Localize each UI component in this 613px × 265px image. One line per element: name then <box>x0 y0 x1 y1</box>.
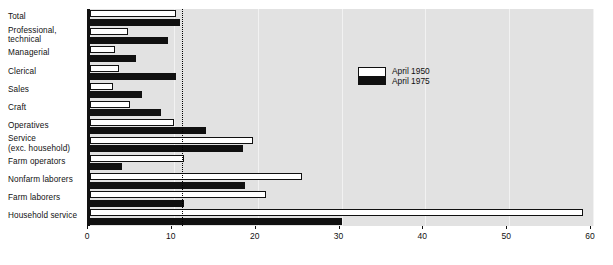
bar-april-1950-10 <box>90 191 266 198</box>
x-tick-mark-50 <box>506 226 507 229</box>
x-axis: 0102030405060 <box>87 226 590 256</box>
bar-april-1950-5 <box>90 101 130 108</box>
x-tick-label-30: 30 <box>334 231 343 241</box>
legend-label-1950: April 1950 <box>392 66 430 76</box>
category-label-6: Operatives <box>8 121 49 131</box>
x-tick-mark-40 <box>422 226 423 229</box>
bar-april-1975-7 <box>90 145 243 152</box>
category-axis-labels: TotalProfessional, technicalManagerialCl… <box>0 0 87 226</box>
bar-april-1950-2 <box>90 46 115 53</box>
category-label-11: Household service <box>8 211 77 221</box>
bar-april-1975-11 <box>90 218 342 225</box>
bar-april-1950-7 <box>90 137 253 144</box>
x-tick-mark-10 <box>171 226 172 229</box>
category-label-0: Total <box>8 12 26 22</box>
bar-april-1975-9 <box>90 182 245 189</box>
background-gridline-60 <box>593 9 594 226</box>
bar-april-1950-6 <box>90 119 174 126</box>
category-label-1: Professional, technical <box>8 26 57 45</box>
category-label-10: Farm laborers <box>8 193 60 203</box>
plot-area <box>87 9 593 226</box>
x-tick-label-60: 60 <box>585 231 594 241</box>
background-gridline-30 <box>342 9 343 226</box>
x-tick-label-50: 50 <box>501 231 510 241</box>
background-gridline-40 <box>425 9 426 226</box>
x-tick-mark-20 <box>255 226 256 229</box>
x-tick-label-20: 20 <box>250 231 259 241</box>
category-label-9: Nonfarm laborers <box>8 175 73 185</box>
x-tick-label-40: 40 <box>418 231 427 241</box>
legend-label-1975: April 1975 <box>392 76 430 86</box>
bar-chart: TotalProfessional, technicalManagerialCl… <box>0 0 613 265</box>
bar-april-1975-4 <box>90 91 142 98</box>
x-tick-label-10: 10 <box>166 231 175 241</box>
bar-april-1975-0 <box>90 19 180 26</box>
bar-april-1950-3 <box>90 65 119 72</box>
x-tick-mark-0 <box>87 226 88 229</box>
bar-april-1950-9 <box>90 173 302 180</box>
category-label-7: Service (exc. household) <box>8 134 70 153</box>
bar-april-1950-8 <box>90 155 184 162</box>
legend-swatch-1950 <box>359 68 385 76</box>
legend-swatch-1975 <box>359 76 385 84</box>
x-tick-mark-30 <box>339 226 340 229</box>
bar-april-1975-5 <box>90 109 161 116</box>
category-label-3: Clerical <box>8 67 36 77</box>
legend-swatch <box>358 67 386 85</box>
bar-april-1975-1 <box>90 37 168 44</box>
bar-april-1975-3 <box>90 73 176 80</box>
category-label-5: Craft <box>8 103 26 113</box>
bar-april-1975-10 <box>90 200 184 207</box>
bar-april-1950-1 <box>90 28 128 35</box>
category-label-2: Managerial <box>8 48 50 58</box>
x-tick-label-0: 0 <box>85 231 90 241</box>
category-label-4: Sales <box>8 85 29 95</box>
background-gridline-50 <box>509 9 510 226</box>
legend: April 1950 April 1975 <box>358 66 430 86</box>
category-label-8: Farm operators <box>8 157 65 167</box>
bar-april-1950-0 <box>90 10 176 17</box>
x-tick-mark-60 <box>590 226 591 229</box>
bar-april-1975-2 <box>90 55 136 62</box>
reference-line-11 <box>182 9 183 226</box>
bar-april-1975-8 <box>90 163 122 170</box>
legend-labels: April 1950 April 1975 <box>392 66 430 86</box>
bar-april-1950-4 <box>90 83 113 90</box>
bar-april-1950-11 <box>90 209 583 216</box>
bar-april-1975-6 <box>90 127 206 134</box>
